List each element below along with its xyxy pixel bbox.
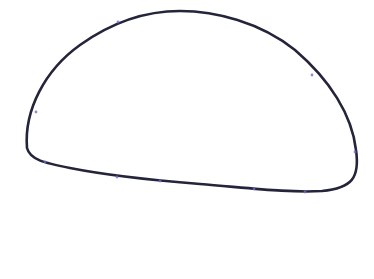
anchor-point[interactable] xyxy=(35,111,38,114)
anchor-point[interactable] xyxy=(116,176,119,179)
path-anchor-points xyxy=(35,21,357,194)
anchor-point[interactable] xyxy=(253,188,256,191)
anchor-point[interactable] xyxy=(311,74,314,77)
drawing-canvas xyxy=(0,0,374,279)
anchor-point[interactable] xyxy=(159,180,162,183)
anchor-point[interactable] xyxy=(304,191,307,194)
anchor-point[interactable] xyxy=(117,21,120,24)
closed-curve-outline[interactable] xyxy=(27,11,357,191)
anchor-point[interactable] xyxy=(44,161,47,164)
anchor-point[interactable] xyxy=(354,151,357,154)
